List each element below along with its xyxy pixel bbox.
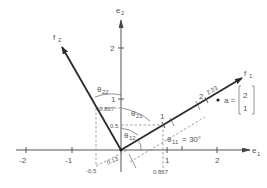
e1-label-sub: 1 (257, 151, 261, 157)
theta11-value: = 30° (182, 135, 201, 144)
annotations: 0.867 0.5 -0.5 0.867 0.13 θ 22 θ 21 θ 12… (86, 85, 201, 175)
label-e1-0867: 0.867 (153, 169, 169, 175)
f2-label-sub: 2 (58, 37, 62, 43)
matrix-top: 2 (243, 91, 248, 100)
label-e1-neg05: -0.5 (86, 168, 97, 174)
f1-tick-2: 2 (199, 92, 204, 101)
theta12-sub: 12 (129, 135, 136, 141)
f1-tick-1: 1 (160, 112, 165, 121)
e1-tick-1: 1 (165, 156, 170, 165)
label-e2-0867: 0.867 (99, 106, 115, 112)
label-e2-05: 0.5 (110, 123, 119, 129)
f1-label-sub: 1 (249, 73, 253, 79)
e2-tick-2: 2 (110, 44, 115, 53)
f2-label: f (53, 33, 56, 42)
theta11-sub: 11 (172, 139, 179, 145)
f1-label: f (244, 69, 247, 78)
point-a-label: a = (224, 96, 236, 105)
e1-tick-neg1: -1 (65, 156, 73, 165)
matrix-bottom: 1 (243, 104, 248, 113)
f1-tick-223: 2.23 (206, 84, 220, 95)
e2-axis: 2 1 e 2 (110, 6, 125, 172)
e1-tick-neg2: -2 (19, 156, 27, 165)
e1-axis: -2 -1 1 2 e 1 (16, 146, 261, 165)
coordinate-frame-diagram: -2 -1 1 2 e 1 2 1 e 2 f 1 (0, 0, 267, 188)
label-proj-013: 0.13 (106, 155, 120, 166)
origin-point (120, 149, 123, 152)
e2-tick-1: 1 (111, 95, 116, 104)
e2-label-sub: 2 (121, 10, 125, 16)
e1-tick-2: 2 (215, 156, 220, 165)
